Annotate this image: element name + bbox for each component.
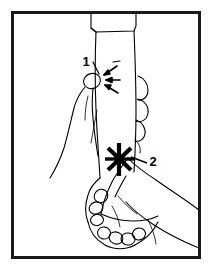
annotation-label-2: 2 bbox=[149, 154, 156, 169]
illustration-canvas: 1 2 bbox=[0, 0, 213, 273]
figure-background bbox=[0, 0, 213, 273]
illustration-figure: 1 2 bbox=[0, 0, 213, 273]
annotation-label-1: 1 bbox=[82, 54, 89, 69]
